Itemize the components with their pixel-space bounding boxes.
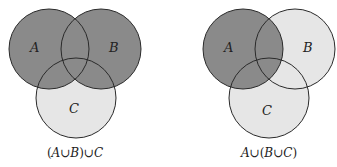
right-caption: A∪(B∪C) (240, 146, 297, 160)
venn-left: A B C (A∪B)∪C (9, 9, 141, 160)
right-label-b: B (302, 40, 313, 55)
left-label-b: B (108, 40, 119, 55)
left-label-c: C (69, 101, 79, 116)
venn-right: A B C A∪(B∪C) (203, 9, 335, 160)
venn-diagrams-canvas: A B C (A∪B)∪C A B C A∪(B∪C) (0, 0, 337, 167)
left-label-a: A (29, 40, 39, 55)
right-label-c: C (262, 103, 272, 118)
right-label-a: A (223, 40, 233, 55)
left-caption: (A∪B)∪C (47, 146, 103, 160)
